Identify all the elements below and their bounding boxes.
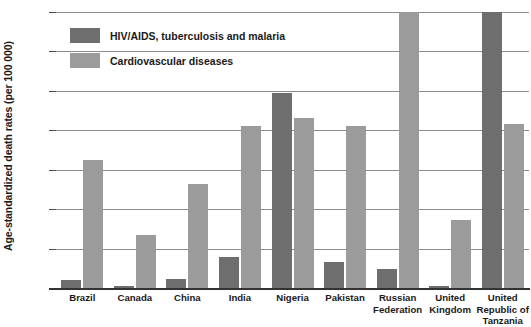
x-axis-label-line: Pakistan (319, 292, 372, 304)
x-axis-label-line: Brazil (56, 292, 109, 304)
y-axis-title: Age-standardized death rates (per 100 00… (0, 0, 16, 292)
y-axis-tick-mark (49, 170, 56, 171)
legend-item: Cardiovascular diseases (70, 53, 285, 68)
bar (272, 93, 292, 288)
x-axis-label-line: Tanzania (476, 315, 529, 327)
bar-group (377, 12, 419, 288)
y-axis-tick-mark (49, 91, 56, 92)
y-axis-tick-mark (49, 249, 56, 250)
legend-swatch (70, 28, 100, 43)
bar (166, 279, 186, 288)
bar (61, 280, 81, 288)
x-axis-label-line: Nigeria (266, 292, 319, 304)
x-axis-label: Nigeria (266, 292, 319, 304)
bar (451, 220, 471, 288)
x-axis-label-line: Kingdom (424, 304, 477, 316)
y-axis-tick-mark (49, 51, 56, 52)
bar (324, 262, 344, 288)
x-axis-label: UnitedKingdom (424, 292, 477, 315)
x-axis-label: Pakistan (319, 292, 372, 304)
x-axis-label-line: Federation (371, 304, 424, 316)
bar (219, 257, 239, 288)
x-axis-label: Canada (109, 292, 162, 304)
bar (346, 126, 366, 288)
bar (377, 269, 397, 288)
bar (188, 184, 208, 288)
bar (294, 118, 314, 288)
y-axis-tick-mark (49, 12, 56, 13)
bar (136, 235, 156, 288)
bar-chart: Age-standardized death rates (per 100 00… (0, 0, 531, 327)
x-axis-label: India (214, 292, 267, 304)
bar (482, 12, 502, 288)
x-axis-label: Brazil (56, 292, 109, 304)
x-axis-label-line: China (161, 292, 214, 304)
legend-label: HIV/AIDS, tuberculosis and malaria (110, 30, 285, 42)
bar-group (324, 12, 366, 288)
chart-legend: HIV/AIDS, tuberculosis and malariaCardio… (70, 28, 285, 78)
y-axis-tick-mark (49, 209, 56, 210)
x-axis-baseline (49, 288, 530, 290)
x-axis-label: UnitedRepublic ofTanzania (476, 292, 529, 327)
x-axis-label-line: United (476, 292, 529, 304)
x-axis-label-line: United (424, 292, 477, 304)
cropped-chart-title (0, 0, 531, 5)
bar (83, 160, 103, 288)
y-axis-title-text: Age-standardized death rates (per 100 00… (2, 41, 14, 251)
bar-group (482, 12, 524, 288)
x-axis-label: RussianFederation (371, 292, 424, 315)
bar (241, 126, 261, 288)
x-axis-label-line: Canada (109, 292, 162, 304)
bar (504, 124, 524, 288)
legend-label: Cardiovascular diseases (110, 55, 233, 67)
bar (399, 12, 419, 288)
legend-swatch (70, 53, 100, 68)
x-axis-label: China (161, 292, 214, 304)
bar-group (429, 12, 471, 288)
x-axis-labels: BrazilCanadaChinaIndiaNigeriaPakistanRus… (56, 292, 529, 327)
x-axis-label-line: Republic of (476, 304, 529, 316)
y-axis-tick-mark (49, 130, 56, 131)
x-axis-label-line: Russian (371, 292, 424, 304)
legend-item: HIV/AIDS, tuberculosis and malaria (70, 28, 285, 43)
x-axis-label-line: India (214, 292, 267, 304)
